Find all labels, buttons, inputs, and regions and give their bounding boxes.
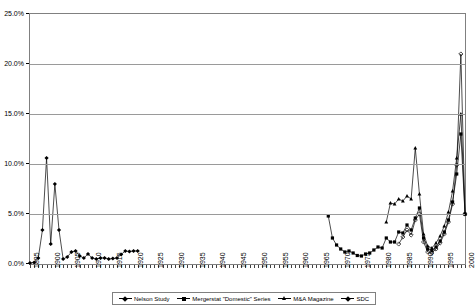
- series-layer: [30, 14, 465, 264]
- data-point: [131, 249, 135, 253]
- data-point: [57, 228, 61, 232]
- legend-label: SDC: [356, 296, 369, 302]
- x-tick-label: 1910: [95, 252, 102, 268]
- data-point: [397, 230, 400, 233]
- data-point: [389, 240, 392, 243]
- legend-marker-icon: [341, 296, 354, 302]
- x-tick-label: 1940: [219, 252, 226, 268]
- x-tick-label: 1990: [427, 252, 434, 268]
- x-tick-label: 1930: [178, 252, 185, 268]
- data-point: [405, 223, 408, 226]
- data-point: [356, 254, 359, 257]
- data-point: [40, 228, 44, 232]
- data-point: [409, 197, 413, 201]
- y-tick-label: 5.0%: [8, 210, 24, 217]
- data-point: [360, 254, 363, 257]
- x-tick-label: 1955: [282, 252, 289, 268]
- data-point: [442, 224, 446, 228]
- x-tick-label: 1975: [364, 252, 371, 268]
- x-tick-label: 1995: [447, 252, 454, 268]
- data-point: [385, 236, 388, 239]
- data-point: [111, 256, 115, 260]
- x-tick-label: 2000: [468, 252, 475, 268]
- x-tick-label: 1985: [406, 252, 413, 268]
- series-2: [327, 132, 467, 257]
- gridline: [30, 114, 465, 115]
- legend-item-2[interactable]: Mergerstat "Domestic" Series: [177, 296, 270, 302]
- gridline: [30, 164, 465, 165]
- series-line: [386, 114, 465, 248]
- y-tick-label: 15.0%: [4, 110, 24, 117]
- x-tick-label: 1900: [54, 252, 61, 268]
- data-point: [49, 242, 53, 246]
- legend-item-1[interactable]: Nelson Study: [119, 296, 170, 302]
- x-tick-label: 1905: [74, 252, 81, 268]
- data-point: [381, 246, 384, 249]
- series-line: [30, 158, 138, 263]
- data-point: [335, 243, 338, 246]
- x-tick-label: 1895: [33, 252, 40, 268]
- series-3: [384, 112, 467, 250]
- x-tick-label: 1950: [261, 252, 268, 268]
- series-1: [28, 156, 140, 265]
- data-point: [352, 251, 355, 254]
- x-tick-label: 1960: [302, 252, 309, 268]
- data-point: [401, 231, 404, 234]
- data-point: [53, 182, 57, 186]
- data-point: [393, 240, 396, 243]
- data-point: [438, 234, 442, 238]
- legend-marker-icon: [177, 296, 190, 302]
- data-point: [405, 194, 409, 198]
- legend-item-3[interactable]: M&A Magazine: [278, 296, 333, 302]
- x-tick-label: 1980: [385, 252, 392, 268]
- series-line: [399, 54, 465, 253]
- y-tick-label: 20.0%: [4, 60, 24, 67]
- chart-legend: Nelson StudyMergerstat "Domestic" Series…: [112, 292, 376, 305]
- data-point: [418, 192, 422, 196]
- legend-marker-icon: [119, 296, 132, 302]
- y-tick-label: 25.0%: [4, 10, 24, 17]
- legend-label: Nelson Study: [134, 296, 170, 302]
- y-axis: 0.0%5.0%10.0%15.0%20.0%25.0%: [0, 0, 27, 306]
- data-point: [339, 247, 342, 250]
- x-tick-label: 1945: [240, 252, 247, 268]
- x-tick-label: 1970: [344, 252, 351, 268]
- x-tick-label: 1915: [116, 252, 123, 268]
- legend-marker-icon: [278, 296, 291, 302]
- data-point: [376, 245, 379, 248]
- y-tick-label: 10.0%: [4, 160, 24, 167]
- data-point: [434, 241, 438, 245]
- x-tick-label: 1920: [137, 252, 144, 268]
- x-tick-label: 1965: [323, 252, 330, 268]
- x-tick-label: 1935: [199, 252, 206, 268]
- gridline: [30, 64, 465, 65]
- data-point: [331, 236, 334, 239]
- data-point: [107, 257, 111, 261]
- data-point: [389, 201, 393, 205]
- x-tick-label: 1925: [157, 252, 164, 268]
- data-point: [413, 146, 417, 150]
- data-point: [384, 220, 388, 224]
- legend-label: M&A Magazine: [293, 296, 333, 302]
- data-point: [397, 197, 401, 201]
- gridline: [30, 214, 465, 215]
- plot-area: [29, 13, 466, 265]
- data-point: [44, 156, 48, 160]
- legend-item-4[interactable]: SDC: [341, 296, 369, 302]
- data-point: [61, 257, 65, 261]
- data-point: [372, 248, 375, 251]
- legend-label: Mergerstat "Domestic" Series: [192, 296, 270, 302]
- data-point: [102, 256, 106, 260]
- data-point: [127, 249, 131, 253]
- series-line: [328, 134, 465, 256]
